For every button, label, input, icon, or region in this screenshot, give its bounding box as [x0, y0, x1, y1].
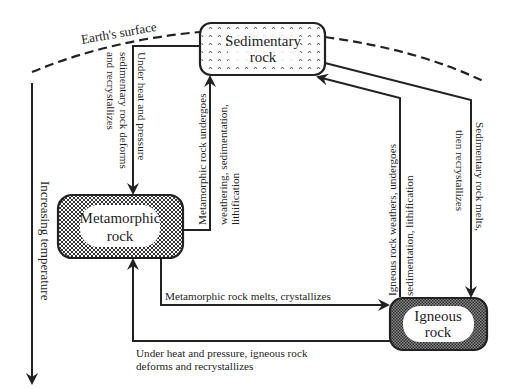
- temperature-axis-label: Increasing temperature: [38, 181, 53, 301]
- edge-meta-to-sed-label-2: weathering, sedimentation,: [217, 104, 229, 225]
- edge-sed-to-meta-label-3: and recrystallizes: [105, 52, 117, 130]
- node-metamorphic-rock: Metamorphic rock: [58, 195, 183, 258]
- edge-ign-to-sed-label-1: Igneous rock weathers, undergoes: [386, 144, 398, 296]
- edge-ign-to-meta-label-2: deforms and recrystallizes: [136, 360, 253, 372]
- igneous-label-line1: Igneous: [414, 308, 462, 324]
- metamorphic-label-line2: rock: [107, 228, 134, 244]
- sedimentary-label-line1: Sedimentary: [225, 33, 301, 49]
- igneous-label-line2: rock: [425, 324, 452, 340]
- sedimentary-label-line2: rock: [250, 49, 277, 65]
- edge-sed-to-ign-label-2: then recrystallizes: [454, 130, 466, 211]
- edge-meta-to-sed-label-3: lithification: [229, 172, 241, 225]
- edge-ign-to-sed-label-2: sedimentation, lithification: [403, 175, 415, 296]
- edge-ign-to-meta-label-1: Under heat and pressure, igneous rock: [136, 347, 308, 359]
- earth-surface-label: Earth's surface: [80, 19, 158, 47]
- node-sedimentary-rock: Sedimentary rock: [200, 23, 325, 75]
- node-igneous-rock: Igneous rock: [390, 298, 487, 350]
- edge-sed-to-ign-label-1: Sedimentary rock melts,: [474, 122, 486, 231]
- edge-meta-to-sed-label-1: Metamorphic rock undergoes: [196, 93, 208, 225]
- edge-meta-to-ign-label: Metamorphic rock melts, crystallizes: [165, 290, 331, 302]
- edge-sed-to-meta-label-2: sedimentary rock deforms: [118, 52, 130, 169]
- edge-sed-to-meta-label-1: Under heat and pressure: [136, 52, 148, 160]
- rock-cycle-diagram: Earth's surface Increasing temperature U…: [0, 0, 511, 390]
- metamorphic-label-line1: Metamorphic: [80, 210, 161, 226]
